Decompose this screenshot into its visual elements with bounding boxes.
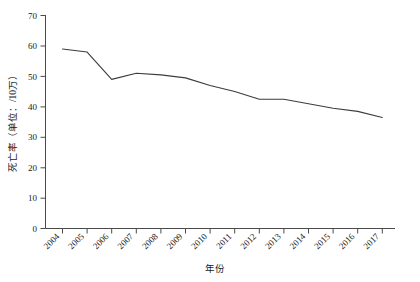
y-tick-label-60: 60 [28,41,38,51]
x-tick-label-2016: 2016 [337,231,357,251]
x-tick-label-2007: 2007 [115,231,135,251]
y-axis-tick-labels: 70 60 50 40 30 20 10 0 [28,11,38,234]
x-tick-label-2008: 2008 [140,231,160,251]
y-tick-label-40: 40 [28,102,38,112]
x-tick-label-2013: 2013 [263,231,283,251]
series-mortality-rate [63,49,383,117]
x-axis-title: 年份 [205,263,225,274]
x-tick-label-2004: 2004 [42,231,62,251]
y-axis-ticks [41,16,46,229]
x-tick-label-2009: 2009 [165,231,185,251]
y-tick-label-0: 0 [33,224,38,234]
x-tick-label-2011: 2011 [214,231,234,251]
x-tick-label-2005: 2005 [66,231,86,251]
x-axis: 2004 2005 2006 2007 2008 2009 2010 2011 … [42,229,395,275]
x-axis-ticks [63,229,383,234]
x-tick-label-2006: 2006 [91,231,111,251]
chart-svg: 70 60 50 40 30 20 10 0 死亡率（单位：/10万） [0,0,420,282]
y-tick-label-10: 10 [28,193,38,203]
x-tick-label-2015: 2015 [312,231,332,251]
y-tick-label-70: 70 [28,11,38,21]
y-axis-title: 死亡率（单位：/10万） [7,70,18,172]
x-axis-tick-labels: 2004 2005 2006 2007 2008 2009 2010 2011 … [42,231,382,251]
x-tick-label-2014: 2014 [288,231,308,251]
y-tick-label-50: 50 [28,72,38,82]
x-tick-label-2012: 2012 [238,231,258,251]
y-axis: 70 60 50 40 30 20 10 0 死亡率（单位：/10万） [7,11,46,234]
mortality-rate-line [63,49,383,117]
x-tick-label-2010: 2010 [189,231,209,251]
mortality-rate-line-chart: 70 60 50 40 30 20 10 0 死亡率（单位：/10万） [0,0,420,282]
x-tick-label-2017: 2017 [361,231,381,251]
y-tick-label-20: 20 [28,163,38,173]
y-tick-label-30: 30 [28,132,38,142]
